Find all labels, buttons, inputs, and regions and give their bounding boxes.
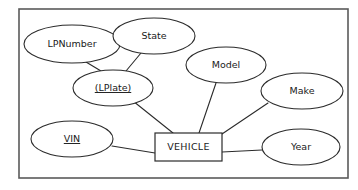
entity-label-vehicle: VEHICLE: [167, 141, 209, 152]
attribute-node-model[interactable]: Model: [186, 47, 266, 83]
attribute-node-lpnumber[interactable]: LPNumber: [24, 25, 120, 63]
attribute-label-vin: VIN: [64, 133, 80, 144]
attribute-label-lplate: (LPlate): [95, 82, 131, 93]
attribute-node-year[interactable]: Year: [262, 129, 340, 165]
attribute-label-make: Make: [289, 85, 314, 96]
er-diagram-svg: LPNumber State (LPlate) Model Make VIN Y…: [0, 0, 358, 190]
attribute-node-vin[interactable]: VIN: [31, 121, 113, 157]
attribute-node-make[interactable]: Make: [261, 73, 343, 109]
er-diagram-canvas: LPNumber State (LPlate) Model Make VIN Y…: [0, 0, 358, 190]
attribute-label-year: Year: [290, 141, 311, 152]
attribute-label-state: State: [141, 30, 166, 41]
attribute-label-model: Model: [212, 59, 241, 70]
attribute-node-state[interactable]: State: [113, 18, 195, 54]
entity-node-vehicle[interactable]: VEHICLE: [155, 133, 222, 161]
attribute-node-lplate[interactable]: (LPlate): [73, 70, 153, 106]
attribute-label-lpnumber: LPNumber: [47, 38, 96, 49]
